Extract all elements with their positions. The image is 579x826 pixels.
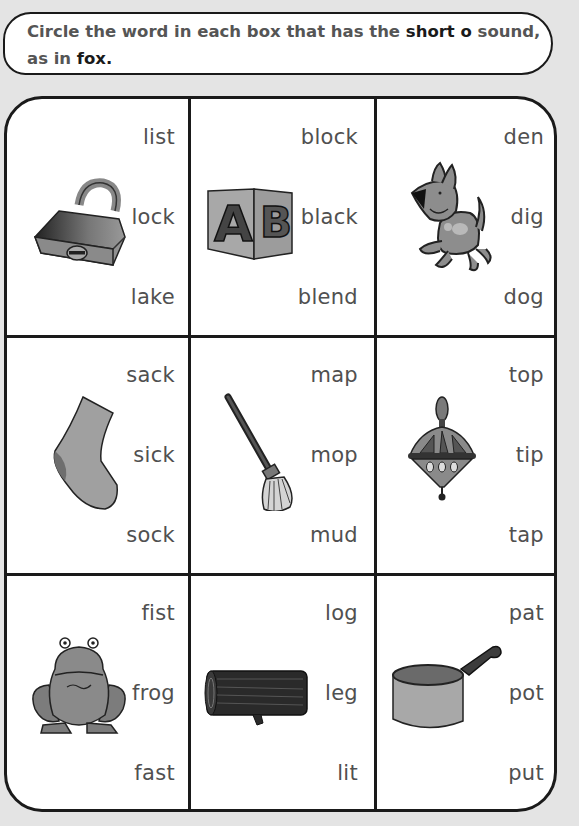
instruction-emphasis-short-o: short o <box>406 22 472 41</box>
mop-icon <box>204 391 314 511</box>
block-letter-b: B <box>260 198 292 247</box>
word-option[interactable]: list <box>143 125 175 149</box>
word-box-pot: pat pot put <box>376 575 557 812</box>
instruction-emphasis-fox: fox <box>77 49 106 68</box>
word-option[interactable]: den <box>504 125 544 149</box>
word-option[interactable]: pot <box>509 681 544 705</box>
word-option[interactable]: block <box>301 125 358 149</box>
word-box-mop: map mop mud <box>190 337 374 575</box>
word-box-sock: sack sick sock <box>7 337 191 575</box>
word-option[interactable]: put <box>508 761 544 785</box>
log-icon <box>198 629 318 749</box>
word-option[interactable]: lake <box>131 285 175 309</box>
word-option[interactable]: lit <box>337 761 358 785</box>
word-option[interactable]: sock <box>126 523 175 547</box>
word-option[interactable]: fast <box>134 761 175 785</box>
word-option[interactable]: mop <box>310 443 358 467</box>
word-grid: list lock lake A B block black blend <box>4 96 557 812</box>
word-option[interactable]: black <box>301 205 358 229</box>
word-box-log: log leg lit <box>190 575 374 812</box>
word-box-dog: den dig dog <box>376 99 557 337</box>
instruction-box: Circle the word in each box that has the… <box>3 12 553 75</box>
pot-icon <box>384 629 508 749</box>
word-option[interactable]: leg <box>325 681 358 705</box>
padlock-icon <box>21 153 131 273</box>
spinning-top-icon <box>390 391 500 511</box>
frog-icon <box>21 629 131 749</box>
alphabet-block-icon: A B <box>204 153 314 273</box>
block-letter-a: A <box>214 195 253 253</box>
word-option[interactable]: frog <box>132 681 175 705</box>
word-option[interactable]: fist <box>141 601 175 625</box>
word-option[interactable]: tip <box>516 443 544 467</box>
word-option[interactable]: lock <box>131 205 175 229</box>
instruction-suffix: . <box>106 49 112 68</box>
word-box-top: top tip tap <box>376 337 557 575</box>
word-option[interactable]: tap <box>509 523 544 547</box>
instruction-prefix: Circle the word in each box that has the <box>27 22 406 41</box>
word-option[interactable]: dig <box>511 205 544 229</box>
dog-icon <box>390 153 500 273</box>
word-option[interactable]: sack <box>126 363 175 387</box>
word-option[interactable]: mud <box>310 523 358 547</box>
word-box-block: A B block black blend <box>190 99 374 337</box>
word-option[interactable]: blend <box>298 285 358 309</box>
word-option[interactable]: pat <box>509 601 544 625</box>
sock-icon <box>21 391 131 511</box>
word-option[interactable]: log <box>325 601 358 625</box>
word-box-frog: fist frog fast <box>7 575 191 812</box>
word-box-lock: list lock lake <box>7 99 191 337</box>
word-option[interactable]: top <box>509 363 544 387</box>
word-option[interactable]: sick <box>133 443 175 467</box>
word-option[interactable]: dog <box>504 285 544 309</box>
instruction-text: Circle the word in each box that has the… <box>27 18 547 72</box>
word-option[interactable]: map <box>310 363 358 387</box>
